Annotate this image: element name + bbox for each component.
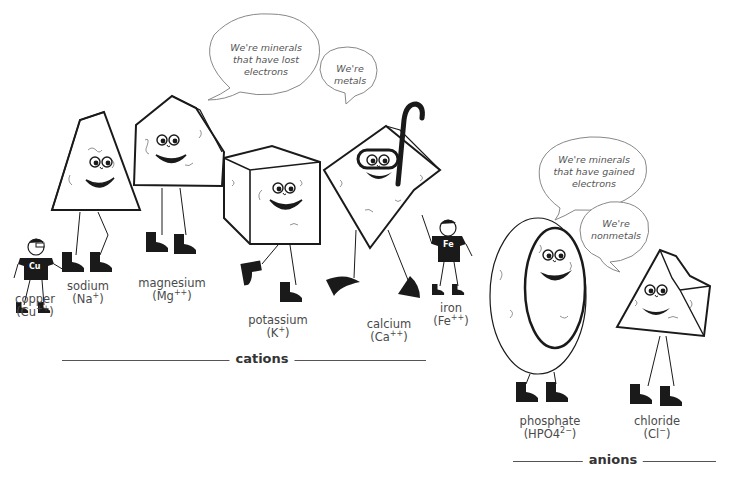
element-formula: (HPO42−) bbox=[520, 428, 581, 441]
bubble-text-cations-2: We're metals bbox=[334, 63, 366, 87]
phosphate-character bbox=[490, 218, 586, 402]
bubble-line: that have lost bbox=[230, 54, 302, 66]
copper-shirt-label: Cu bbox=[29, 262, 41, 271]
magnesium-character bbox=[134, 96, 224, 254]
bubble-line: nonmetals bbox=[591, 230, 641, 242]
element-formula: (Ca++) bbox=[367, 331, 412, 344]
iron-shirt-label: Fe bbox=[443, 240, 454, 249]
label-magnesium: magnesium (Mg++) bbox=[138, 277, 206, 303]
bubble-line: We're minerals bbox=[553, 154, 634, 166]
label-iron: iron (Fe++) bbox=[433, 302, 468, 328]
bubble-text-cations-1: We're minerals that have lost electrons bbox=[230, 42, 302, 78]
bubble-text-anions-1: We're minerals that have gained electron… bbox=[553, 154, 634, 190]
label-chloride: chloride (Cl−) bbox=[634, 415, 680, 441]
chloride-character bbox=[617, 250, 710, 406]
label-potassium: potassium (K+) bbox=[248, 314, 308, 340]
cations-heading: cations bbox=[229, 351, 294, 366]
iron-character bbox=[422, 215, 472, 295]
element-formula: (Na+) bbox=[67, 293, 109, 306]
potassium-character bbox=[224, 146, 320, 302]
bubble-line: We're bbox=[591, 218, 641, 230]
label-sodium: sodium (Na+) bbox=[67, 280, 109, 306]
label-phosphate: phosphate (HPO42−) bbox=[520, 415, 581, 441]
sodium-character bbox=[52, 112, 140, 272]
label-copper: copper (Cu++) bbox=[15, 293, 55, 319]
element-formula: (Cu++) bbox=[15, 306, 55, 319]
bubble-text-anions-2: We're nonmetals bbox=[591, 218, 641, 242]
element-formula: (Fe++) bbox=[433, 315, 468, 328]
element-formula: (Cl−) bbox=[634, 428, 680, 441]
anions-heading: anions bbox=[583, 452, 643, 467]
calcium-character bbox=[324, 104, 440, 298]
bubble-line: metals bbox=[334, 75, 366, 87]
bubble-line: electrons bbox=[553, 178, 634, 190]
element-formula: (K+) bbox=[248, 327, 308, 340]
element-formula: (Mg++) bbox=[138, 290, 206, 303]
bubble-line: We're minerals bbox=[230, 42, 302, 54]
bubble-line: that have gained bbox=[553, 166, 634, 178]
bubble-line: electrons bbox=[230, 66, 302, 78]
label-calcium: calcium (Ca++) bbox=[367, 318, 412, 344]
bubble-line: We're bbox=[334, 63, 366, 75]
